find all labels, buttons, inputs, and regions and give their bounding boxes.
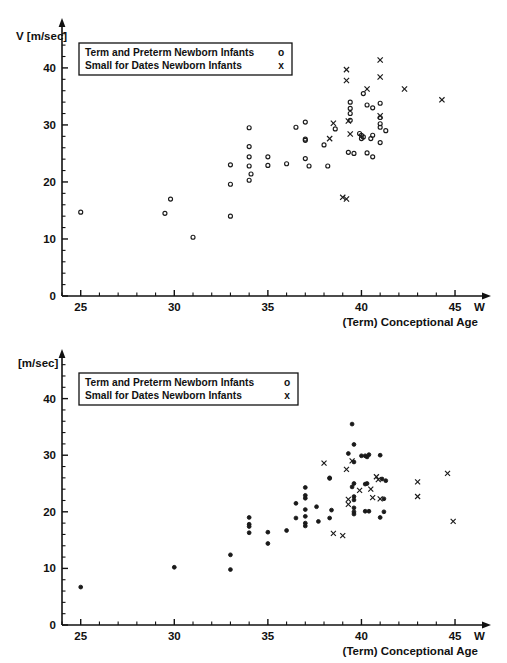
data-point-small-for-dates [348,131,353,136]
data-point-term-preterm [249,172,253,176]
scatter-plot-top: V [m/sec] 2530354045010203040 W (Term) C… [0,0,507,335]
data-point-small-for-dates [344,78,349,83]
data-point-small-for-dates [445,471,450,476]
data-point-term-preterm [303,157,307,161]
data-point-small-for-dates [378,74,383,79]
data-point-term-preterm [369,137,373,141]
x-tick-label: 45 [449,301,462,313]
data-point-term-preterm [384,479,388,483]
legend-label-sfd-bottom: Small for Dates Newborn Infants [85,390,242,401]
x-tick-label: 40 [355,630,368,642]
data-point-term-preterm [326,164,330,168]
legend-symbol-circle-top: o [278,47,284,58]
data-point-term-preterm [79,210,83,214]
legend-label-term-bottom: Term and Preterm Newborn Infants [85,377,254,388]
x-axis-unit-top: W [474,301,485,313]
data-point-small-for-dates [344,467,349,472]
data-point-term-preterm [367,509,371,513]
legend-top: Term and Preterm Newborn Infants o Small… [79,43,292,75]
x-tick-label: 40 [355,301,368,313]
data-point-term-preterm [247,164,251,168]
data-point-term-preterm [169,197,173,201]
data-point-term-preterm [352,482,356,486]
data-point-term-preterm [328,516,332,520]
x-tick-label: 25 [74,630,87,642]
data-point-term-preterm [294,125,298,129]
chart-panel-top: V [m/sec] 2530354045010203040 W (Term) C… [0,0,507,335]
y-axis-label-top: V [m/sec] [16,30,67,42]
data-point-term-preterm [365,151,369,155]
data-point-term-preterm [266,542,270,546]
legend-symbol-cross-bottom: x [284,390,290,401]
y-tick-label: 20 [43,176,56,188]
y-axis-label-bottom: [m/sec] [18,357,58,369]
y-tick-label: 0 [50,619,56,631]
data-point-term-preterm [361,92,365,96]
data-point-small-for-dates [357,488,362,493]
data-point-term-preterm [79,585,83,589]
data-point-term-preterm [382,497,386,501]
data-point-small-for-dates [327,136,332,141]
y-tick-label: 10 [43,562,56,574]
data-point-small-for-dates [331,531,336,536]
data-point-term-preterm [228,163,232,167]
data-point-term-preterm [346,452,350,456]
x-axis-label-top: (Term) Conceptional Age [343,316,478,328]
data-point-term-preterm [333,127,337,131]
data-point-term-preterm [315,505,319,509]
axis-tick-labels-bottom: 2530354045010203040 [43,393,462,642]
data-point-term-preterm [352,506,356,510]
data-point-small-for-dates [370,495,375,500]
data-points-bottom [79,422,456,589]
data-point-term-preterm [303,514,307,518]
data-point-term-preterm [378,141,382,145]
data-point-term-preterm [307,164,311,168]
x-tick-label: 35 [261,301,274,313]
y-tick-label: 10 [43,233,56,245]
data-point-term-preterm [303,508,307,512]
data-point-term-preterm [346,150,350,154]
x-tick-label: 25 [74,301,87,313]
data-point-term-preterm [247,531,251,535]
data-point-term-preterm [371,155,375,159]
y-tick-label: 0 [50,290,56,302]
y-tick-label: 40 [43,62,56,74]
data-point-term-preterm [266,163,270,167]
data-point-term-preterm [247,145,251,149]
data-point-small-for-dates [439,97,444,102]
x-tick-label: 30 [168,630,181,642]
y-tick-label: 40 [43,393,56,405]
data-point-term-preterm [163,211,167,215]
y-tick-label: 30 [43,449,56,461]
data-point-small-for-dates [344,67,349,72]
data-point-small-for-dates [415,479,420,484]
data-point-term-preterm [360,454,364,458]
data-point-term-preterm [382,510,386,514]
data-point-term-preterm [348,100,352,104]
y-tick-label: 30 [43,119,56,131]
legend-label-sfd-top: Small for Dates Newborn Infants [85,60,242,71]
data-point-term-preterm [371,106,375,110]
data-point-term-preterm [266,155,270,159]
data-point-term-preterm [247,126,251,130]
data-point-term-preterm [303,524,307,528]
data-point-small-for-dates [322,461,327,466]
data-point-term-preterm [365,482,369,486]
chart-panel-bottom: [m/sec] 2530354045010203040 W (Term) Con… [0,335,507,663]
data-point-term-preterm [365,103,369,107]
data-point-term-preterm [352,443,356,447]
data-point-small-for-dates [368,487,373,492]
data-point-term-preterm [350,422,354,426]
data-point-term-preterm [247,178,251,182]
legend-label-term-top: Term and Preterm Newborn Infants [85,47,254,58]
data-point-term-preterm [348,106,352,110]
data-point-term-preterm [266,530,270,534]
data-point-term-preterm [352,151,356,155]
x-tick-label: 30 [168,301,181,313]
data-point-small-for-dates [331,121,336,126]
x-tick-label: 45 [449,630,462,642]
scatter-figure: V [m/sec] 2530354045010203040 W (Term) C… [0,0,507,663]
data-point-small-for-dates [415,494,420,499]
data-point-term-preterm [294,501,298,505]
data-point-term-preterm [378,453,382,457]
